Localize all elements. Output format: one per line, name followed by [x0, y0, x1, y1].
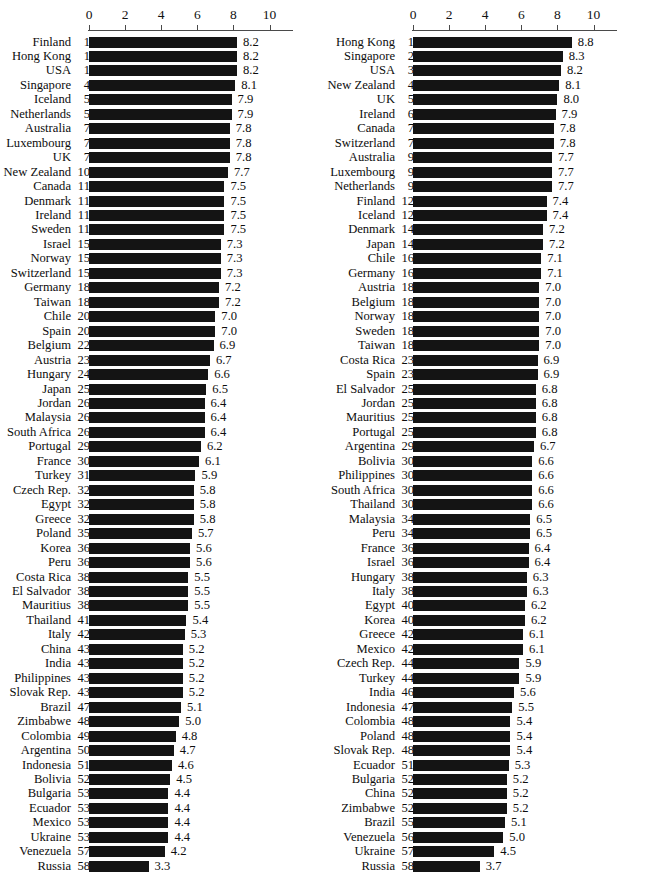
category-label: India [0, 657, 71, 670]
value-label: 5.0 [509, 831, 525, 844]
chart-row: Slovak Rep.485.4 [324, 745, 646, 758]
bar [89, 224, 224, 235]
rank-label: 38 [74, 585, 90, 598]
rank-label: 11 [74, 195, 90, 208]
value-label: 6.4 [211, 426, 227, 439]
category-label: Hong Kong [324, 36, 395, 49]
chart-row: Singapore48.1 [0, 79, 320, 92]
rank-label: 9 [398, 151, 414, 164]
bar [413, 253, 541, 264]
value-label: 7.0 [545, 281, 561, 294]
value-label: 7.5 [230, 195, 246, 208]
right-chart-axis: 0246810 [324, 0, 646, 36]
chart-row: Sweden187.0 [324, 325, 646, 338]
chart-row: Ukraine574.5 [324, 846, 646, 859]
bar [89, 499, 194, 510]
chart-row: New Zealand48.1 [324, 79, 646, 92]
chart-row: Luxembourg97.7 [324, 166, 646, 179]
rank-label: 25 [398, 411, 414, 424]
category-label: Israel [0, 238, 71, 251]
chart-row: Netherlands57.9 [0, 108, 320, 121]
rank-label: 44 [398, 657, 414, 670]
value-label: 7.3 [227, 238, 243, 251]
chart-row: Poland355.7 [0, 528, 320, 541]
bar [413, 644, 523, 655]
category-label: Czech Rep. [0, 484, 71, 497]
value-label: 5.6 [196, 542, 212, 555]
value-label: 6.6 [538, 484, 554, 497]
rank-label: 53 [74, 816, 90, 829]
category-label: Turkey [324, 672, 395, 685]
left-chart-axis: 0246810 [0, 0, 320, 36]
value-label: 7.0 [545, 310, 561, 323]
bar [413, 37, 572, 48]
chart-row: Colombia485.4 [324, 716, 646, 729]
value-label: 8.2 [243, 50, 259, 63]
chart-row: Singapore28.3 [324, 50, 646, 63]
bar [89, 253, 221, 264]
rank-label: 9 [398, 180, 414, 193]
bar [89, 470, 195, 481]
rank-label: 48 [398, 715, 414, 728]
chart-row: Brazil555.1 [324, 817, 646, 830]
rank-label: 30 [398, 469, 414, 482]
value-label: 6.9 [220, 339, 236, 352]
axis-tick [125, 25, 126, 31]
chart-row: Belgium187.0 [324, 296, 646, 309]
rank-label: 30 [398, 498, 414, 511]
chart-row: France306.1 [0, 455, 320, 468]
bar [89, 239, 221, 250]
rank-label: 51 [398, 759, 414, 772]
category-label: Luxembourg [324, 166, 395, 179]
category-label: Chile [0, 310, 71, 323]
category-label: Israel [324, 556, 395, 569]
category-label: Spain [0, 325, 71, 338]
rank-label: 41 [74, 614, 90, 627]
rank-label: 47 [398, 701, 414, 714]
category-label: Canada [324, 122, 395, 135]
chart-row: Portugal296.2 [0, 441, 320, 454]
chart-row: Germany167.1 [324, 267, 646, 280]
chart-row: Belgium226.9 [0, 340, 320, 353]
bar [413, 355, 538, 366]
value-label: 8.0 [563, 93, 579, 106]
bar [89, 138, 230, 149]
chart-row: India435.2 [0, 658, 320, 671]
rank-label: 32 [74, 484, 90, 497]
value-label: 5.7 [198, 527, 214, 540]
value-label: 5.5 [194, 571, 210, 584]
category-label: Luxembourg [0, 137, 71, 150]
category-label: USA [324, 64, 395, 77]
chart-row: France366.4 [324, 542, 646, 555]
bar [89, 369, 208, 380]
category-label: Norway [324, 310, 395, 323]
value-label: 7.0 [221, 310, 237, 323]
category-label: Indonesia [324, 701, 395, 714]
value-label: 8.3 [569, 50, 585, 63]
value-label: 7.8 [560, 122, 576, 135]
category-label: Sweden [324, 325, 395, 338]
bar [89, 644, 183, 655]
value-label: 6.9 [544, 368, 560, 381]
bar [413, 629, 523, 640]
bar [89, 846, 165, 857]
axis-tick [89, 25, 90, 31]
category-label: Egypt [0, 498, 71, 511]
chart-row: UK77.8 [0, 152, 320, 165]
rank-label: 18 [74, 296, 90, 309]
category-label: Argentina [324, 440, 395, 453]
value-label: 4.4 [174, 831, 190, 844]
bar [89, 485, 194, 496]
category-label: Finland [0, 36, 71, 49]
category-label: Portugal [0, 440, 71, 453]
value-label: 6.6 [214, 368, 230, 381]
chart-row: Iceland57.9 [0, 94, 320, 107]
category-label: UK [0, 151, 71, 164]
rank-label: 29 [74, 440, 90, 453]
bar [89, 788, 168, 799]
bar [89, 441, 201, 452]
rank-label: 50 [74, 744, 90, 757]
rank-label: 18 [398, 281, 414, 294]
rank-label: 53 [74, 831, 90, 844]
rank-label: 29 [398, 440, 414, 453]
